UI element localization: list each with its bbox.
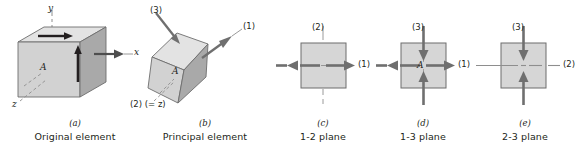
axis-z-label: z	[12, 99, 17, 109]
arrow-1-label: (1)	[243, 21, 255, 31]
axis-2-label: (2)	[563, 59, 575, 69]
face-label-a: A	[172, 66, 179, 76]
panel-a-caption-letter: (a)	[0, 118, 150, 128]
arrow-3-inward-icon	[156, 13, 180, 44]
panel-e-caption-text: 2-3 plane	[468, 131, 582, 142]
panel-c-caption-letter: (c)	[268, 118, 378, 128]
panel-c-1-2-plane: (2) (1) (c) 1-2 plane	[268, 0, 378, 154]
arrow-3-label: (3)	[150, 5, 162, 15]
cube-front-face	[18, 42, 80, 97]
axis-y-label: y	[48, 3, 53, 13]
panel-d-caption-letter: (d)	[368, 118, 478, 128]
panel-b-caption-text: Principal element	[130, 131, 280, 142]
panel-a-original-element: y x z A (a) Original element	[0, 0, 150, 154]
face-label-a: A	[417, 60, 424, 70]
panel-c-caption-text: 1-2 plane	[268, 131, 378, 142]
stress-element-figure: y x z A (a) Original element	[0, 0, 582, 154]
axis-2-label: (2) (= z)	[130, 99, 166, 109]
axis-3-label: (3)	[412, 22, 424, 32]
face-label-a: A	[40, 62, 47, 72]
panel-b-caption-letter: (b)	[130, 118, 280, 128]
panel-e-caption-letter: (e)	[468, 118, 582, 128]
panel-e-2-3-plane: (3) (2) (e) 2-3 plane	[468, 0, 582, 154]
panel-a-caption-text: Original element	[0, 131, 150, 142]
axis-3-label: (3)	[512, 22, 524, 32]
panel-d-1-3-plane: (3) (1) A (d) 1-3 plane	[368, 0, 478, 154]
panel-d-caption-text: 1-3 plane	[368, 131, 478, 142]
panel-a-artwork	[0, 0, 150, 118]
axis-2-label: (2)	[312, 22, 324, 32]
panel-b-principal-element: (3) (1) (2) (= z) A (b) Principal elemen…	[130, 0, 280, 154]
